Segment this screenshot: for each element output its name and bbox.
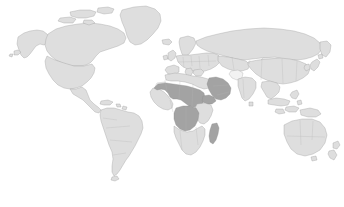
region-tasmania xyxy=(311,156,317,161)
world-map-figure xyxy=(0,0,344,207)
world-map-svg xyxy=(0,0,344,207)
region-sri-lanka xyxy=(249,102,253,106)
